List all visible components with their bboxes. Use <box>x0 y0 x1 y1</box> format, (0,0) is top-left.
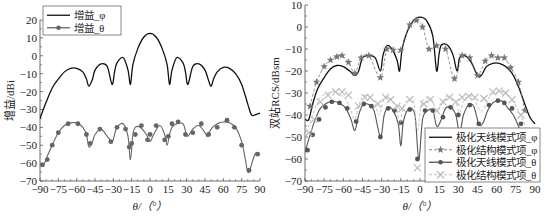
star-marker <box>345 58 353 65</box>
y-tick-label: 10 <box>291 0 303 11</box>
circle-marker <box>183 132 188 137</box>
x-axis-label: θ/（°） <box>403 200 438 212</box>
circle-marker <box>423 108 428 113</box>
rcs-chart: 100−10−20−30−40−50−60−70−90−75−60−45−30−… <box>268 0 541 212</box>
x-tick-label: 60 <box>491 183 503 195</box>
x-tick-label: 0 <box>147 183 153 195</box>
y-tick-label: −30 <box>20 103 38 115</box>
legend: 极化天线模式项_φ极化结构模式项_φ极化天线模式项_θ极化结构模式项_θ <box>425 128 540 182</box>
x-tick-label: 30 <box>181 183 193 195</box>
x-tick-label: 30 <box>453 183 465 195</box>
circle-marker <box>305 148 310 153</box>
series-line <box>40 33 260 118</box>
circle-marker <box>448 105 453 110</box>
circle-marker <box>115 125 120 130</box>
x-tick-label: −90 <box>296 183 314 195</box>
x-marker <box>509 96 516 103</box>
x-tick-label: −15 <box>392 183 410 195</box>
circle-marker <box>232 125 237 130</box>
x-marker <box>406 96 413 103</box>
x-marker <box>496 87 503 94</box>
star-marker <box>365 52 373 59</box>
legend-circle-marker <box>438 160 443 165</box>
y-tick-label: −20 <box>285 65 303 77</box>
circle-marker <box>123 127 128 132</box>
x-tick-label: −60 <box>335 183 353 195</box>
star-marker <box>494 54 502 61</box>
y-tick-label: −40 <box>285 109 303 121</box>
x-marker <box>465 93 472 100</box>
circle-marker <box>317 117 322 122</box>
y-tick-label: 0 <box>297 21 303 33</box>
star-marker <box>507 64 515 71</box>
circle-marker <box>84 132 89 137</box>
series-line <box>305 17 535 124</box>
y-tick-label: −40 <box>20 121 38 133</box>
series-line <box>40 122 260 173</box>
figure-canvas: 20100−10−20−30−40−50−60−70−90−75−60−45−3… <box>0 0 545 219</box>
x-marker <box>414 164 421 171</box>
x-tick-label: 45 <box>472 183 484 195</box>
plot-area <box>40 33 260 172</box>
circle-marker <box>369 104 374 109</box>
circle-marker <box>441 115 446 120</box>
x-marker <box>345 92 352 99</box>
x-tick-label: −30 <box>373 183 391 195</box>
circle-marker <box>199 121 204 126</box>
circle-marker <box>247 168 252 173</box>
circle-marker <box>496 98 501 103</box>
circle-marker <box>40 163 45 168</box>
circle-marker <box>415 157 420 162</box>
circle-marker <box>329 99 334 104</box>
circle-marker <box>162 137 167 142</box>
legend-label: 极化结构模式项_θ <box>456 169 536 181</box>
legend-label: 极化天线模式项_φ <box>456 131 537 143</box>
y-tick-label: −50 <box>285 131 303 143</box>
x-marker <box>367 94 374 101</box>
circle-marker <box>337 101 342 106</box>
y-tick-label: −60 <box>285 153 303 165</box>
x-marker <box>427 96 434 103</box>
circle-marker <box>239 143 244 148</box>
y-tick-label: −50 <box>20 139 38 151</box>
star-marker <box>333 53 341 60</box>
circle-marker <box>345 106 350 111</box>
circle-marker <box>176 120 181 125</box>
legend-circle-marker <box>56 25 61 30</box>
x-marker <box>480 95 487 102</box>
y-tick-label: −60 <box>20 157 38 169</box>
star-marker <box>501 54 509 61</box>
circle-marker <box>170 121 175 126</box>
circle-marker <box>361 102 366 107</box>
x-tick-label: 90 <box>530 183 542 195</box>
legend-label: 增益_θ <box>74 22 104 34</box>
y-tick-label: 10 <box>26 32 38 44</box>
star-marker <box>451 75 459 82</box>
circle-marker <box>378 135 383 140</box>
x-tick-label: 45 <box>200 183 212 195</box>
circle-marker <box>354 119 359 124</box>
star-marker <box>419 23 427 30</box>
y-tick-label: 0 <box>32 50 38 62</box>
x-tick-label: −90 <box>31 183 49 195</box>
circle-marker <box>129 141 134 146</box>
star-marker <box>377 74 385 81</box>
circle-marker <box>148 132 153 137</box>
circle-marker <box>467 103 472 108</box>
legend-label: 增益_φ <box>74 9 105 21</box>
y-tick-label: −10 <box>20 68 38 80</box>
y-tick-label: −10 <box>285 43 303 55</box>
x-tick-label: −45 <box>354 183 372 195</box>
gain-chart: 20100−10−20−30−40−50−60−70−90−75−60−45−3… <box>3 6 266 212</box>
series-1 <box>40 33 260 118</box>
circle-marker <box>206 132 211 137</box>
circle-marker <box>215 125 220 130</box>
circle-marker <box>323 105 328 110</box>
circle-marker <box>166 134 171 139</box>
x-tick-label: 15 <box>163 183 175 195</box>
y-tick-label: −20 <box>20 86 38 98</box>
circle-marker <box>45 157 50 162</box>
x-tick-label: −30 <box>105 183 123 195</box>
circle-marker <box>139 123 144 128</box>
circle-marker <box>225 118 230 123</box>
